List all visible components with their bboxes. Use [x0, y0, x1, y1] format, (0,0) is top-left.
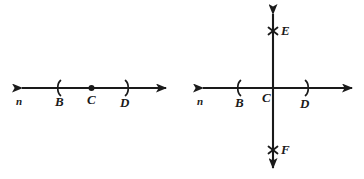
left-point-c-dot — [89, 85, 95, 91]
left-label-line-n: n — [16, 96, 22, 107]
left-label-point-b: B — [55, 95, 64, 108]
right-label-point-e: E — [281, 24, 290, 37]
right-label-point-d: D — [300, 97, 309, 110]
geometry-figure-canvas: n B C D n B C D E F — [0, 0, 364, 179]
right-label-line-n: n — [197, 96, 203, 107]
geometry-figure-svg — [0, 0, 364, 179]
right-label-point-b: B — [235, 96, 244, 109]
right-label-point-f: F — [281, 143, 290, 156]
left-label-point-c: C — [87, 93, 96, 106]
right-diagram-group — [203, 14, 352, 168]
left-label-point-d: D — [120, 96, 129, 109]
right-label-point-c: C — [262, 91, 271, 104]
